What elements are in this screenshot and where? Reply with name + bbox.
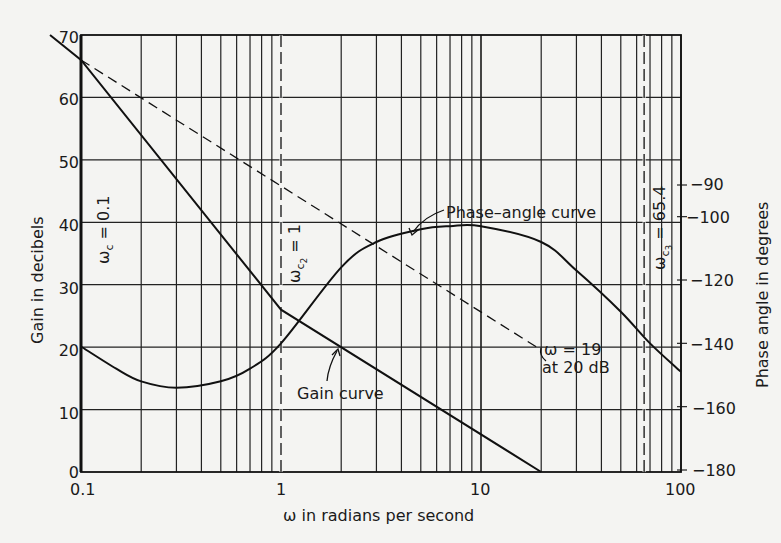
x-tick-10: 10	[470, 480, 490, 499]
yr-tick-180: −180	[692, 461, 736, 480]
y-right-axis-title: Phase angle in degrees	[753, 202, 772, 388]
x-tick-1: 1	[276, 480, 286, 499]
yr-tick-140: −140	[690, 335, 734, 354]
bode-chart: 0.1 1 10 100 0 10 20 30 40 50 60 70 −90 …	[0, 0, 781, 543]
curves	[50, 35, 681, 472]
y-tick-labels: 0 10 20 30 40 50 60 70	[59, 28, 79, 482]
gain-curve-label: Gain curve	[297, 384, 384, 403]
wc3-label: ωc3 = 65.4	[650, 186, 674, 270]
x-tick-labels: 0.1 1 10 100	[70, 480, 696, 499]
plot-frame	[81, 35, 681, 472]
y-tick-30: 30	[59, 279, 79, 298]
y-tick-70: 70	[59, 28, 79, 47]
yr-tick-100: −100	[686, 208, 730, 227]
phase-curve-label: Phase–angle curve	[446, 203, 596, 222]
grid	[81, 35, 687, 472]
y-axis-title: Gain in decibels	[28, 216, 47, 344]
at20db-label: at 20 dB	[542, 358, 610, 377]
plot-border	[81, 35, 681, 472]
x-tick-100: 100	[665, 480, 696, 499]
x-tick-0.1: 0.1	[70, 480, 95, 499]
y-tick-50: 50	[59, 153, 79, 172]
yr-tick-160: −160	[692, 399, 736, 418]
yr-tick-90: −90	[690, 175, 724, 194]
y-tick-40: 40	[59, 216, 79, 235]
y-tick-60: 60	[59, 90, 79, 109]
wc1-label: ωc = 0.1	[94, 196, 116, 265]
y-right-tick-labels: −90 −100 −120 −140 −160 −180	[686, 175, 736, 480]
y-tick-0: 0	[69, 463, 79, 482]
omega19-label: ω = 19	[544, 340, 601, 359]
wc2-label: ωc2 = 1	[285, 224, 309, 283]
yr-tick-120: −120	[690, 271, 734, 290]
y-tick-10: 10	[59, 404, 79, 423]
y-tick-20: 20	[59, 341, 79, 360]
gain-arrow	[327, 351, 337, 381]
x-axis-title: ω in radians per second	[283, 506, 474, 525]
